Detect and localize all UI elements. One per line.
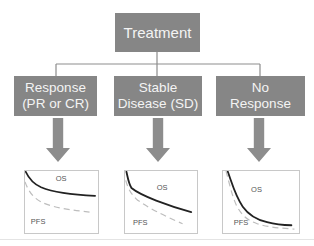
node-treatment: Treatment — [115, 13, 200, 52]
node-stable-disease-line1: Stable — [139, 80, 177, 96]
treatment-outcome-flowchart: Treatment Response (PR or CR) Stable Dis… — [0, 0, 314, 246]
survival-chart-no-response: OS PFS — [222, 170, 300, 234]
survival-chart-response: OS PFS — [24, 170, 99, 234]
pfs-label: PFS — [31, 217, 46, 226]
os-label: OS — [157, 183, 168, 192]
node-no-response: No Response — [216, 76, 305, 116]
down-arrow-icon — [146, 118, 170, 162]
down-arrow-icon — [46, 118, 70, 162]
down-arrow-icon — [247, 118, 271, 162]
os-label: OS — [56, 174, 67, 183]
node-response: Response (PR or CR) — [14, 76, 97, 116]
node-no-response-line1: No — [252, 80, 269, 96]
survival-chart-stable-disease: OS PFS — [124, 170, 198, 234]
pfs-label: PFS — [133, 218, 148, 227]
os-curve — [228, 171, 292, 225]
node-stable-disease-line2: Disease (SD) — [118, 96, 198, 112]
pfs-label: PFS — [234, 218, 249, 227]
pfs-curve — [25, 182, 90, 212]
page-rule-line — [0, 239, 314, 240]
node-response-line1: Response — [25, 80, 86, 96]
node-stable-disease: Stable Disease (SD) — [114, 76, 202, 116]
node-treatment-label: Treatment — [124, 24, 192, 41]
os-label: OS — [251, 185, 262, 194]
node-response-line2: (PR or CR) — [22, 96, 89, 112]
node-no-response-line2: Response — [230, 96, 291, 112]
